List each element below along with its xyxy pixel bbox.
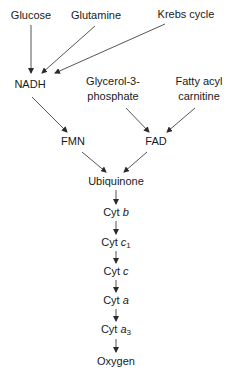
- cyt-c1-subscript: 1: [126, 241, 130, 250]
- node-fad: FAD: [145, 135, 166, 148]
- node-fmn: FMN: [61, 135, 85, 148]
- node-glutamine: Glutamine: [71, 9, 121, 22]
- arrow-krebs-nadh: [55, 24, 165, 73]
- arrow-fmn-ubiquinone: [82, 152, 106, 172]
- arrow-glutamine-nadh: [42, 26, 95, 73]
- cyt-b-prefix: Cyt: [103, 206, 123, 218]
- node-cyt-c1: Cyt c1: [101, 236, 131, 252]
- cyt-c-prefix: Cyt: [103, 265, 123, 277]
- arrow-nadh-fmn: [32, 97, 67, 132]
- cyt-a3-prefix: Cyt: [101, 323, 121, 335]
- node-glycerol-line1: Glycerol-3-: [86, 75, 140, 88]
- node-nadh: NADH: [14, 78, 45, 91]
- node-fatty-line2: carnitine: [175, 90, 222, 103]
- node-glucose: Glucose: [11, 9, 51, 22]
- node-glycerol-3-phosphate: Glycerol-3- phosphate: [86, 75, 140, 103]
- cyt-b-letter: b: [123, 206, 129, 218]
- arrow-layer: [0, 0, 231, 377]
- electron-transport-diagram: Glucose Glutamine Krebs cycle NADH Glyce…: [0, 0, 231, 377]
- node-fatty-acyl-carnitine: Fatty acyl carnitine: [175, 75, 222, 103]
- arrow-glycerol-fad: [126, 108, 149, 132]
- cyt-a3-subscript: 3: [127, 328, 131, 337]
- node-oxygen: Oxygen: [97, 355, 135, 368]
- node-cyt-a: Cyt a: [103, 294, 129, 307]
- node-krebs-cycle: Krebs cycle: [158, 8, 215, 21]
- node-cyt-b: Cyt b: [103, 206, 129, 219]
- arrow-fad-ubiquinone: [124, 152, 147, 172]
- node-fatty-line1: Fatty acyl: [175, 75, 222, 88]
- cyt-a-prefix: Cyt: [103, 294, 123, 306]
- node-cyt-a3: Cyt a3: [101, 323, 131, 339]
- cyt-c-letter: c: [123, 265, 129, 277]
- node-ubiquinone: Ubiquinone: [88, 175, 144, 188]
- arrow-fatty-fad: [167, 108, 195, 132]
- node-cyt-c: Cyt c: [103, 265, 128, 278]
- cyt-a-letter: a: [123, 294, 129, 306]
- node-glycerol-line2: phosphate: [86, 90, 140, 103]
- cyt-c1-prefix: Cyt: [101, 236, 121, 248]
